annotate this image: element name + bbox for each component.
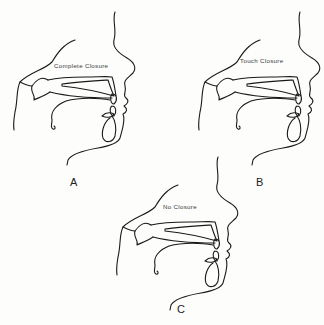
panel-label-c: C [177,303,185,315]
panel-b-drawing [199,12,320,165]
diagram-canvas: Complete Closure Touch Closure No Closur… [0,0,324,325]
caption-touch-closure: Touch Closure [240,57,283,64]
caption-no-closure: No Closure [163,203,197,210]
panel-c-drawing [117,157,238,310]
panel-label-b: B [256,176,263,188]
caption-complete-closure: Complete Closure [54,62,108,69]
panel-a-drawing [14,12,135,165]
panel-label-a: A [70,176,77,188]
velopharyngeal-closure-figure [0,0,324,325]
